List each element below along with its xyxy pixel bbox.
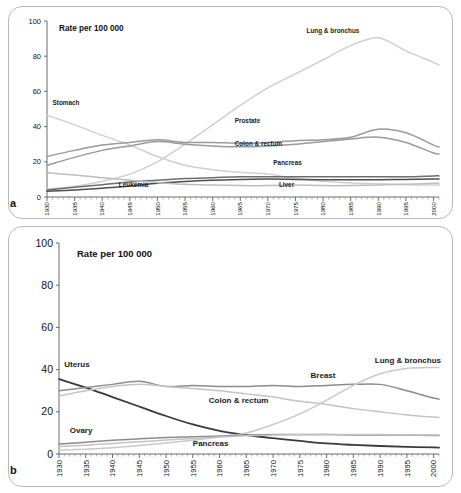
x-tick-label: 1980 (322, 460, 331, 477)
series-label-colon-rectum: Colon & rectum (209, 396, 269, 405)
y-tick-label: 80 (33, 52, 41, 61)
series-label-ovary: Ovary (70, 426, 93, 435)
series-label-breast: Breast (311, 371, 336, 380)
series-label-pancreas: Pancreas (193, 439, 229, 448)
x-tick-label: 1990 (375, 201, 382, 215)
x-tick-label: 1965 (236, 201, 243, 215)
y-tick-label: 0 (37, 193, 41, 202)
x-tick-label: 1935 (71, 201, 78, 215)
y-tick-label: 20 (41, 405, 53, 417)
series-label-leukemia: Leukemia (119, 181, 149, 188)
axis-title: Rate per 100 000 (59, 24, 124, 33)
y-tick-label: 60 (33, 87, 41, 96)
y-tick-label: 20 (33, 157, 41, 166)
x-tick-label: 1970 (269, 460, 278, 477)
y-tick-label: 100 (35, 237, 53, 249)
y-tick-label: 80 (41, 279, 53, 291)
x-tick-label: 1950 (162, 460, 171, 477)
x-tick-label: 1955 (189, 460, 198, 477)
x-tick-label: 1985 (349, 460, 358, 477)
x-tick-label: 1975 (296, 460, 305, 477)
x-tick-label: 1935 (82, 460, 91, 477)
x-tick-label: 1960 (215, 460, 224, 477)
x-tick-label: 1980 (319, 201, 326, 215)
y-tick-label: 40 (41, 363, 53, 375)
panel-b-female-rates: 0204060801001930193519401945195019551960… (8, 226, 453, 487)
x-tick-label: 1930 (55, 460, 64, 477)
panel-a-letter: a (10, 197, 16, 209)
x-tick-label: 1945 (135, 460, 144, 477)
y-tick-label: 60 (41, 321, 53, 333)
series-label-prostate: Prostate (235, 117, 261, 124)
series-label-stomach: Stomach (53, 99, 80, 106)
series-line-lung-bronchus (59, 367, 439, 450)
panel-a-male-rates: 0204060801001930193519401945195019551960… (8, 6, 453, 219)
x-tick-label: 1930 (43, 201, 50, 215)
y-tick-label: 40 (33, 122, 41, 131)
x-tick-label: 2000 (430, 201, 437, 215)
x-tick-label: 1995 (403, 460, 412, 477)
panel-b-letter: b (10, 464, 17, 476)
x-tick-label: 1960 (209, 201, 216, 215)
series-label-lung-bronchus: Lung & bronchus (375, 356, 442, 365)
series-label-uterus: Uterus (64, 360, 90, 369)
y-tick-label: 100 (28, 17, 41, 26)
series-label-liver: Liver (279, 181, 295, 188)
y-tick-label: 0 (47, 448, 53, 460)
series-label-lung-bronchus: Lung & bronchus (306, 27, 359, 35)
x-tick-label: 1995 (402, 201, 409, 215)
x-tick-label: 1970 (264, 201, 271, 215)
x-tick-label: 1950 (154, 201, 161, 215)
x-tick-label: 1985 (347, 201, 354, 215)
cancer-death-rate-figure: 0204060801001930193519401945195019551960… (0, 0, 461, 493)
series-label-pancreas: Pancreas (273, 159, 302, 166)
series-line-lung-bronchus (47, 38, 439, 189)
chart-a-svg: 0204060801001930193519401945195019551960… (9, 7, 452, 218)
series-label-colon-rectum: Colon & rectum (235, 140, 283, 147)
x-tick-label: 1940 (108, 460, 117, 477)
x-tick-label: 1975 (292, 201, 299, 215)
chart-b-svg: 0204060801001930193519401945195019551960… (9, 227, 452, 486)
x-tick-label: 1940 (98, 201, 105, 215)
axis-title: Rate per 100 000 (77, 248, 152, 259)
x-tick-label: 1990 (376, 460, 385, 477)
series-line-uterus (59, 379, 439, 448)
x-tick-label: 1955 (181, 201, 188, 215)
x-tick-label: 2000 (429, 460, 438, 477)
x-tick-label: 1945 (126, 201, 133, 215)
x-tick-label: 1965 (242, 460, 251, 477)
